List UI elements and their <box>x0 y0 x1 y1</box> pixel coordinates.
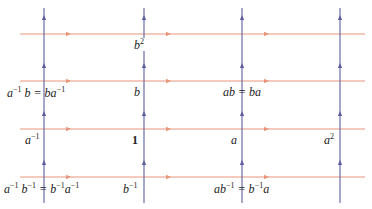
label-identity: 1 <box>131 134 139 146</box>
label-exponent: 2 <box>140 37 144 46</box>
label-exponent: −1 <box>129 181 138 190</box>
label-exponent: −1 <box>57 85 66 94</box>
arrow-up-icon <box>42 160 46 165</box>
arrow-up-icon <box>240 15 244 20</box>
arrow-right-icon <box>264 79 269 83</box>
arrow-up-icon <box>338 15 342 20</box>
arrow-right-icon <box>264 127 269 131</box>
label-part: b = ba <box>22 86 57 100</box>
label-part: b <box>19 182 28 196</box>
label-exponent: −1 <box>56 181 65 190</box>
arrow-up-icon <box>338 63 342 68</box>
arrow-up-icon <box>142 63 146 68</box>
label-part: = b <box>235 182 255 196</box>
arrow-up-icon <box>142 15 146 20</box>
arrow-right-icon <box>166 127 171 131</box>
label-b-inverse: b−1 <box>122 182 139 195</box>
horizontal-edges-a <box>20 32 365 179</box>
label-exponent: −1 <box>226 181 235 190</box>
label-a: a <box>230 134 238 146</box>
label-text: b <box>134 85 140 99</box>
vertical-edges-b <box>42 8 342 203</box>
label-exponent: −1 <box>13 85 22 94</box>
label-exponent: 2 <box>330 132 334 141</box>
label-text: 1 <box>132 133 138 147</box>
arrow-up-icon <box>42 15 46 20</box>
label-a-inverse-b-inverse: a−1 b−1 = b−1a−1 <box>3 182 80 195</box>
arrow-up-icon <box>338 160 342 165</box>
label-a-inverse: a−1 <box>24 133 41 146</box>
arrow-right-icon <box>264 175 269 179</box>
arrow-up-icon <box>240 111 244 116</box>
label-part: = b <box>36 182 56 196</box>
label-exponent: −1 <box>28 181 37 190</box>
label-exponent: −1 <box>31 132 40 141</box>
arrow-right-icon <box>166 32 171 36</box>
label-ab-equals-ba: ab = ba <box>222 86 262 98</box>
arrow-up-icon <box>142 160 146 165</box>
label-b: b <box>133 86 141 98</box>
label-a-squared: a2 <box>323 133 335 146</box>
arrow-up-icon <box>240 160 244 165</box>
arrow-right-icon <box>166 79 171 83</box>
arrow-right-icon <box>66 32 71 36</box>
arrow-up-icon <box>42 63 46 68</box>
arrow-right-icon <box>166 175 171 179</box>
arrow-right-icon <box>66 175 71 179</box>
arrow-up-icon <box>240 63 244 68</box>
label-a-inverse-b: a−1 b = ba−1 <box>6 86 66 99</box>
label-exponent: −1 <box>10 181 19 190</box>
arrow-up-icon <box>142 111 146 116</box>
label-exponent: −1 <box>71 181 80 190</box>
arrow-right-icon <box>66 79 71 83</box>
label-text: ab = ba <box>223 85 261 99</box>
arrow-right-icon <box>264 32 269 36</box>
arrow-up-icon <box>42 111 46 116</box>
label-b-squared: b2 <box>133 38 145 51</box>
label-text: a <box>231 133 237 147</box>
label-part: a <box>263 182 269 196</box>
label-part: ab <box>214 182 226 196</box>
label-a-b-inverse: ab−1 = b−1a <box>213 182 270 195</box>
cayley-graph-diagram <box>0 0 372 209</box>
label-exponent: −1 <box>255 181 264 190</box>
arrow-up-icon <box>338 111 342 116</box>
arrow-right-icon <box>66 127 71 131</box>
